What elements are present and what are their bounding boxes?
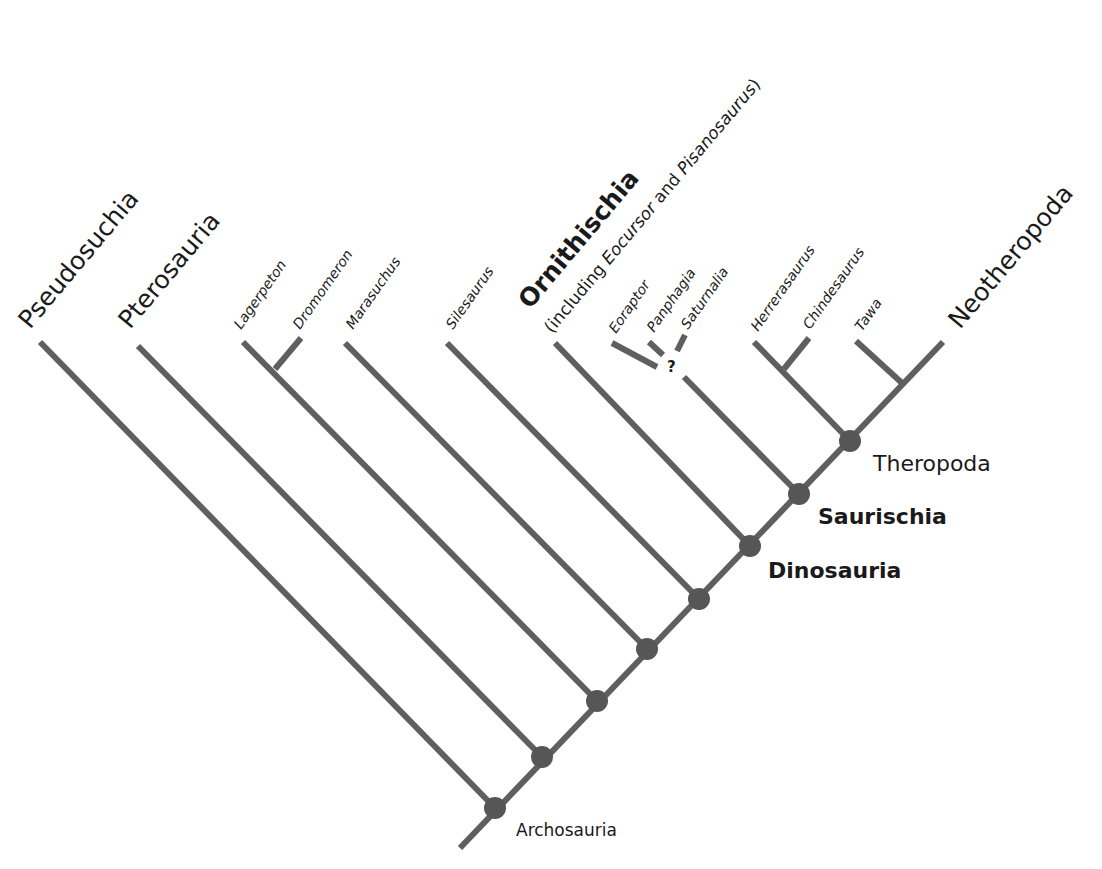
branch-pseudosuchia — [40, 342, 495, 808]
label-marasuchus: Marasuchus — [342, 254, 403, 332]
node-dinosauromorpha — [586, 690, 608, 712]
branch-herrerasaurus — [754, 342, 850, 441]
branch-panphagia — [649, 342, 663, 355]
tip-labels: Pseudosuchia Pterosauria Lagerpeton Drom… — [12, 74, 1079, 336]
label-neotheropoda: Neotheropoda — [942, 179, 1079, 334]
branch-chindesaurus — [784, 338, 809, 369]
node-dinosauriformes — [636, 638, 658, 660]
branch-saurischia-basal — [684, 377, 799, 494]
label-lagerpeton: Lagerpeton — [230, 257, 289, 332]
branch-saturnalia — [677, 335, 685, 351]
label-archosauria: Archosauria — [516, 820, 617, 840]
branch-silesaurus — [447, 343, 699, 599]
node-saurischia — [788, 483, 810, 505]
node-theropoda — [839, 430, 861, 452]
label-theropoda: Theropoda — [872, 451, 991, 476]
label-ornithischia-note: (including Eocursor and Pisanosaurus) — [540, 74, 765, 336]
label-dinosauria: Dinosauria — [768, 558, 901, 583]
note-pisanosaurus: Pisanosaurus — [673, 79, 760, 178]
node-archosauria — [484, 797, 506, 819]
node-dinosauria-stem — [688, 588, 710, 610]
branch-tawa — [856, 341, 902, 383]
clade-labels: Archosauria Dinosauria Saurischia Therop… — [516, 451, 991, 840]
cladogram: ? Pseudosuchia Pterosauria Lagerpeton Dr… — [0, 0, 1102, 869]
branch-pterosauria — [138, 346, 542, 757]
label-tawa: Tawa — [851, 295, 885, 333]
node-avemetatarsalia — [531, 746, 553, 768]
label-pterosauria: Pterosauria — [112, 206, 226, 333]
branch-dromomeron — [275, 338, 301, 369]
label-saurischia: Saurischia — [818, 504, 947, 529]
branch-lagerpeton — [243, 342, 597, 701]
label-silesaurus: Silesaurus — [442, 264, 496, 332]
node-dinosauria — [739, 535, 761, 557]
uncertainty-marker: ? — [667, 358, 676, 376]
branch-ornithischia — [555, 343, 750, 546]
